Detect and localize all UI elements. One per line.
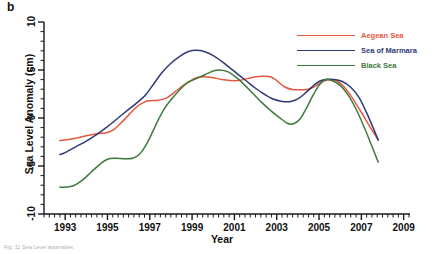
series-line-black-sea — [60, 70, 378, 187]
legend-item-black-sea[interactable]: Black Sea — [297, 59, 437, 71]
figure-caption: Fig. 11 Sea Level anomalies — [4, 244, 73, 250]
legend-label: Sea of Marmara — [361, 46, 417, 55]
legend-swatch-icon — [297, 65, 355, 66]
figure-panel: b Sea Level Anomaly (cm) 1050-5-10 19931… — [0, 0, 444, 254]
legend-swatch-icon — [297, 50, 355, 51]
legend-label: Black Sea — [361, 61, 396, 70]
legend-label: Aegean Sea — [361, 31, 404, 40]
legend-swatch-icon — [297, 35, 355, 36]
chart-legend: Aegean SeaSea of MarmaraBlack Sea — [297, 29, 437, 74]
legend-item-sea-of-marmara[interactable]: Sea of Marmara — [297, 44, 437, 56]
legend-item-aegean-sea[interactable]: Aegean Sea — [297, 29, 437, 41]
series-line-aegean-sea — [60, 76, 378, 140]
